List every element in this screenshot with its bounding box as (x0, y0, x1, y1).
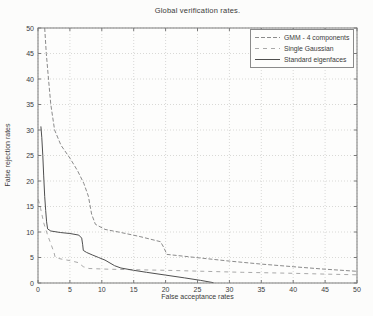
svg-text:0: 0 (36, 286, 40, 293)
figure-canvas: Global verification rates. False rejecti… (0, 0, 373, 316)
svg-text:5: 5 (68, 286, 72, 293)
svg-text:45: 45 (26, 50, 34, 57)
svg-text:50: 50 (353, 286, 361, 293)
svg-text:30: 30 (226, 286, 234, 293)
svg-text:40: 40 (289, 286, 297, 293)
svg-text:0: 0 (30, 280, 34, 287)
legend-label: Single Gaussian (284, 45, 334, 52)
svg-text:35: 35 (257, 286, 265, 293)
svg-text:20: 20 (162, 286, 170, 293)
solid-line-sample-icon (255, 59, 280, 60)
svg-text:10: 10 (26, 229, 34, 236)
svg-text:20: 20 (26, 178, 34, 185)
svg-text:25: 25 (26, 152, 34, 159)
svg-text:5: 5 (30, 254, 34, 261)
svg-text:15: 15 (130, 286, 138, 293)
svg-text:30: 30 (26, 127, 34, 134)
legend: GMM - 4 components Single Gaussian Stand… (250, 29, 354, 68)
dashed-line-sample-icon (255, 37, 280, 38)
svg-text:10: 10 (98, 286, 106, 293)
svg-text:15: 15 (26, 203, 34, 210)
legend-item-single-gaussian: Single Gaussian (255, 44, 351, 53)
svg-text:35: 35 (26, 101, 34, 108)
svg-text:45: 45 (321, 286, 329, 293)
svg-text:40: 40 (26, 76, 34, 83)
legend-label: GMM - 4 components (284, 34, 349, 41)
svg-text:25: 25 (194, 286, 202, 293)
legend-item-standard-eigenfaces: Standard eigenfaces (255, 55, 351, 64)
legend-item-gmm: GMM - 4 components (255, 33, 351, 42)
svg-text:50: 50 (26, 25, 34, 32)
dashed-line-sample-icon (255, 48, 280, 49)
x-axis-label: False acceptance rates (38, 293, 357, 300)
legend-label: Standard eigenfaces (284, 56, 346, 63)
